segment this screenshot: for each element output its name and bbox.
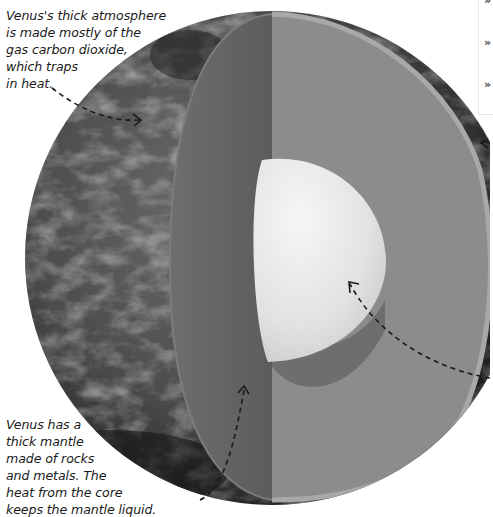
caption-line: heat from the core — [6, 484, 156, 501]
caption-line: is made mostly of the — [6, 24, 166, 41]
bullet-icon: » — [484, 78, 491, 91]
atmosphere-caption: Venus's thick atmosphere is made mostly … — [6, 7, 166, 92]
sidebar-box — [478, 0, 493, 115]
caption-line: gas carbon dioxide, — [6, 41, 166, 58]
caption-line: and metals. The — [6, 467, 156, 484]
bullet-icon: » — [484, 0, 491, 7]
caption-line: keeps the mantle liquid. — [6, 501, 156, 517]
bullet-icon: » — [484, 36, 491, 49]
caption-line: Venus has a — [6, 416, 156, 433]
caption-line: in heat. — [6, 75, 166, 92]
caption-line: which traps — [6, 58, 166, 75]
caption-line: Venus's thick atmosphere — [6, 7, 166, 24]
caption-line: made of rocks — [6, 450, 156, 467]
mantle-caption: Venus has a thick mantle made of rocks a… — [6, 416, 156, 517]
caption-line: thick mantle — [6, 433, 156, 450]
